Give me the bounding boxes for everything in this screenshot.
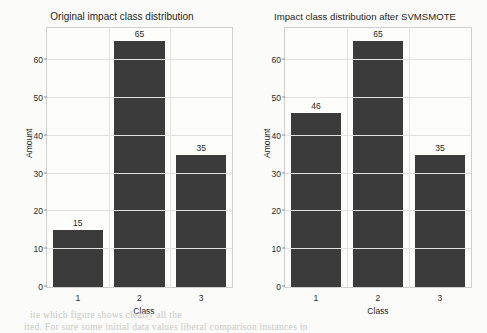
- y-tick-mark: [282, 59, 285, 60]
- scan-bleed-text-line1: ite which figure shows clearly all the: [0, 310, 487, 320]
- bar[interactable]: 353: [176, 155, 227, 287]
- y-tick-mark: [282, 286, 285, 287]
- chart-original-distribution: Original impact class distribution Amoun…: [0, 0, 244, 305]
- y-gridline: [285, 135, 471, 136]
- y-gridline: [285, 59, 471, 60]
- y-tick-label: 10: [34, 244, 43, 254]
- y-tick-label: 50: [34, 93, 43, 103]
- x-tick-label: 2: [376, 293, 381, 303]
- y-tick-mark: [44, 134, 47, 135]
- bar[interactable]: 151: [53, 230, 104, 287]
- plot-area: 461652353 0102030405060: [284, 27, 472, 288]
- y-gridline: [285, 248, 471, 249]
- y-tick-mark: [44, 172, 47, 173]
- x-tick-label: 1: [75, 293, 80, 303]
- y-tick-label: 20: [34, 206, 43, 216]
- y-tick-mark: [44, 210, 47, 211]
- y-gridline: [47, 248, 232, 249]
- y-tick-label: 40: [272, 131, 281, 141]
- x-tick-label: 3: [438, 293, 443, 303]
- y-tick-label: 40: [34, 131, 43, 141]
- bar[interactable]: 461: [291, 113, 342, 287]
- y-tick-mark: [44, 286, 47, 287]
- y-gridline: [47, 59, 232, 60]
- scan-bleed-text-line2: ited. For sure some initial data values …: [0, 322, 487, 332]
- bar[interactable]: 652: [114, 41, 165, 287]
- y-tick-label: 50: [272, 93, 281, 103]
- bar-value-label: 65: [135, 29, 144, 39]
- y-tick-mark: [282, 172, 285, 173]
- y-gridline: [47, 135, 232, 136]
- y-tick-mark: [44, 59, 47, 60]
- y-gridline: [47, 97, 232, 98]
- bar[interactable]: 652: [353, 41, 404, 287]
- y-gridline: [285, 173, 471, 174]
- x-tick-label: 3: [199, 293, 204, 303]
- y-axis-label: Amount: [262, 129, 272, 158]
- bar[interactable]: 353: [415, 155, 466, 287]
- y-tick-mark: [282, 210, 285, 211]
- bar-value-label: 15: [73, 218, 82, 228]
- y-tick-label: 10: [272, 244, 281, 254]
- y-gridline: [285, 210, 471, 211]
- chart-title: Impact class distribution after SVMSMOTE: [243, 11, 487, 22]
- x-gridline: [109, 28, 110, 287]
- y-tick-mark: [282, 134, 285, 135]
- y-axis-label: Amount: [24, 129, 34, 158]
- x-gridline: [409, 28, 410, 287]
- y-tick-mark: [282, 96, 285, 97]
- y-tick-mark: [44, 248, 47, 249]
- bar-value-label: 65: [373, 29, 382, 39]
- y-tick-label: 20: [272, 206, 281, 216]
- y-tick-label: 60: [34, 55, 43, 65]
- scanned-figure-page: Original impact class distribution Amoun…: [0, 0, 487, 333]
- y-tick-label: 0: [38, 282, 43, 292]
- y-tick-label: 30: [272, 169, 281, 179]
- y-tick-label: 0: [276, 282, 281, 292]
- chart-title: Original impact class distribution: [0, 11, 244, 22]
- y-gridline: [285, 97, 471, 98]
- y-gridline: [47, 173, 232, 174]
- y-tick-label: 30: [34, 169, 43, 179]
- chart-svmsmote-distribution: Impact class distribution after SVMSMOTE…: [243, 0, 487, 305]
- plot-area: 151652353 0102030405060: [46, 27, 233, 288]
- bar-value-label: 35: [196, 143, 205, 153]
- x-gridline: [170, 28, 171, 287]
- x-tick-label: 1: [314, 293, 319, 303]
- y-tick-mark: [282, 248, 285, 249]
- y-gridline: [47, 210, 232, 211]
- x-tick-label: 2: [137, 293, 142, 303]
- y-tick-label: 60: [272, 55, 281, 65]
- y-tick-mark: [44, 96, 47, 97]
- bar-value-label: 46: [311, 101, 320, 111]
- bar-value-label: 35: [435, 143, 444, 153]
- x-gridline: [347, 28, 348, 287]
